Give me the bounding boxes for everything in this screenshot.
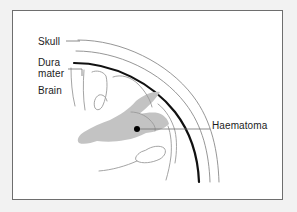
brain-gyrus-left	[71, 68, 75, 106]
brain-gyrus-right-inner	[166, 126, 171, 180]
label-dura-line2: mater	[38, 68, 64, 79]
dura-leader-line	[68, 69, 82, 76]
brain-gyrus-right	[158, 104, 177, 163]
skull-outer-table-curve	[78, 40, 219, 182]
haematoma-mass	[78, 92, 169, 144]
label-dura-line1: Dura	[38, 57, 60, 68]
label-brain: Brain	[38, 85, 62, 96]
diagram-canvas	[0, 0, 297, 212]
brain-gyrus-lower-loop	[136, 146, 166, 162]
figure-container: Skull Dura mater Brain Haematoma	[0, 0, 297, 212]
brain-gyrus-second	[92, 71, 107, 110]
label-dura-mater: Dura mater	[38, 57, 64, 79]
brain-gyrus-left-fold	[83, 70, 85, 110]
brain-lower-boundary	[99, 161, 137, 171]
haematoma-marker-dot	[134, 126, 140, 132]
label-skull: Skull	[38, 36, 60, 47]
label-haematoma: Haematoma	[212, 120, 267, 131]
